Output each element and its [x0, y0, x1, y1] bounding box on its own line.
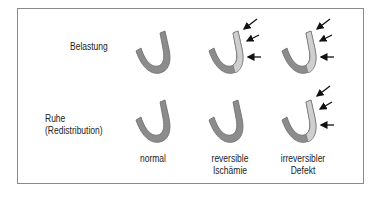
perfusion-defect	[306, 100, 316, 142]
col-label-normal: normal	[119, 153, 187, 165]
arrow-icon	[320, 35, 332, 41]
myocardium-rest-normal	[134, 98, 174, 146]
row-label-belastung: Belastung	[70, 41, 108, 53]
myocardium-stress-reversible	[207, 29, 277, 77]
col-label-reversible: reversible Ischämie	[196, 153, 264, 177]
myocardium-rest-reversible	[207, 98, 247, 146]
arrow-icon	[247, 35, 259, 41]
myocardium-stress-irreversible	[280, 29, 350, 77]
myocardium-stress-normal	[134, 29, 174, 77]
arrow-icon	[320, 102, 332, 109]
myocardium-rest-irreversible	[280, 98, 350, 146]
col-label-irreversible: irreversibler Defekt	[269, 153, 337, 177]
perfusion-defect	[306, 31, 316, 73]
perfusion-defect	[233, 31, 243, 73]
row-label-ruhe: Ruhe (Redistribution)	[45, 113, 103, 137]
